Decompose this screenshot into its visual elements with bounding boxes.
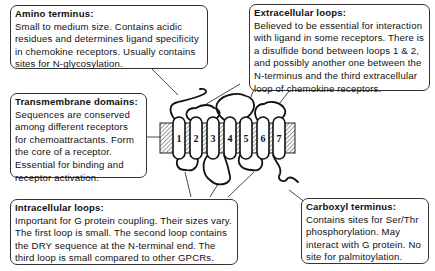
- helix-label: 3: [211, 133, 216, 144]
- callout-body: Important for G protein coupling. Their …: [15, 215, 233, 265]
- helix-label: 2: [194, 133, 199, 144]
- helix-label: 6: [261, 133, 266, 144]
- callout-body: Contains sites for Ser/Thr phosphorylati…: [306, 214, 424, 264]
- helix-label: 7: [277, 133, 282, 144]
- callout-body: Small to medium size. Contains acidic re…: [15, 21, 203, 71]
- callout-transmembrane-domains: Transmembrane domains: Sequences are con…: [10, 93, 147, 178]
- callout-extracellular-loops: Extracellular loops: Believed to be esse…: [249, 4, 430, 91]
- callout-intracellular-loops: Intracellular loops: Important for G pro…: [10, 199, 238, 265]
- callout-title: Extracellular loops:: [254, 7, 425, 20]
- callout-title: Amino terminus:: [15, 8, 203, 21]
- callout-title: Carboxyl terminus:: [306, 201, 424, 214]
- callout-title: Transmembrane domains:: [15, 96, 142, 109]
- helix-label: 4: [228, 133, 233, 144]
- callout-title: Intracellular loops:: [15, 202, 233, 215]
- callout-carboxyl-terminus: Carboxyl terminus: Contains sites for Se…: [301, 198, 429, 264]
- helix-label: 1: [177, 133, 182, 144]
- callout-body: Sequences are conserved among different …: [15, 109, 142, 185]
- helix-label: 5: [244, 133, 249, 144]
- callout-body: Believed to be essential for interaction…: [254, 20, 425, 96]
- callout-amino-terminus: Amino terminus: Small to medium size. Co…: [10, 5, 208, 69]
- intracellular-loop-2: [204, 155, 231, 184]
